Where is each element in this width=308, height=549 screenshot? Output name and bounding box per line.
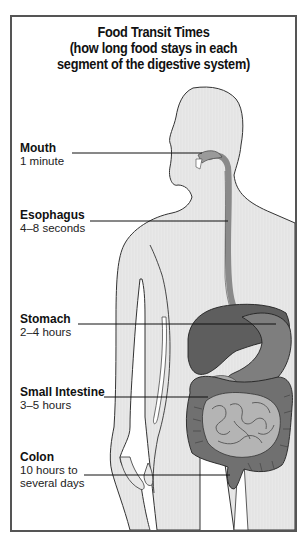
- label-mouth: Mouth 1 minute: [20, 142, 64, 168]
- diagram-frame: Food Transit Times (how long food stays …: [10, 15, 297, 532]
- label-colon: Colon 10 hours to several days: [20, 451, 85, 490]
- label-colon-time-line-1: 10 hours to: [20, 464, 85, 477]
- small-intestine: [202, 393, 280, 458]
- label-colon-time-line-2: several days: [20, 477, 85, 490]
- label-esophagus-name: Esophagus: [20, 209, 85, 222]
- label-small-intestine-name: Small Intestine: [20, 386, 105, 399]
- title-line-2: (how long food stays in each: [29, 40, 278, 56]
- diagram-title: Food Transit Times (how long food stays …: [29, 24, 278, 72]
- label-stomach-name: Stomach: [20, 313, 71, 326]
- label-esophagus: Esophagus 4–8 seconds: [20, 209, 85, 235]
- label-mouth-time: 1 minute: [20, 155, 64, 168]
- title-line-1: Food Transit Times: [29, 24, 278, 40]
- label-small-intestine: Small Intestine 3–5 hours: [20, 386, 105, 412]
- label-stomach-time: 2–4 hours: [20, 326, 71, 339]
- label-stomach: Stomach 2–4 hours: [20, 313, 71, 339]
- label-colon-name: Colon: [20, 451, 85, 464]
- label-mouth-name: Mouth: [20, 142, 64, 155]
- label-esophagus-time: 4–8 seconds: [20, 222, 85, 235]
- title-line-3: segment of the digestive system): [29, 56, 278, 72]
- label-small-intestine-time: 3–5 hours: [20, 399, 105, 412]
